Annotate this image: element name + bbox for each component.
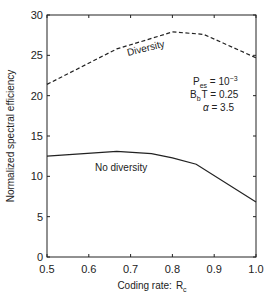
y-tick-label: 30 bbox=[31, 9, 43, 21]
chart: 0.50.60.70.80.91.0 051015202530 Diversit… bbox=[0, 0, 272, 303]
y-axis-label: Normalized spectral efficiency bbox=[5, 70, 16, 203]
x-tick-label: 0.8 bbox=[165, 263, 180, 275]
x-tick-label: 1.0 bbox=[248, 263, 263, 275]
annotation-bbt: BbT = 0.25 bbox=[190, 89, 239, 102]
annotation-p-es: Pes = 10−3 bbox=[193, 75, 238, 89]
series-label-no-diversity: No diversity bbox=[95, 162, 147, 173]
series-label-diversity: Diversity bbox=[126, 38, 166, 58]
y-tick-label: 20 bbox=[31, 90, 43, 102]
x-tick-label: 0.5 bbox=[39, 263, 54, 275]
x-tick-label: 0.6 bbox=[81, 263, 96, 275]
x-tick-label: 0.7 bbox=[123, 263, 138, 275]
x-ticks: 0.50.60.70.80.91.0 bbox=[39, 15, 263, 275]
y-tick-label: 25 bbox=[31, 49, 43, 61]
x-tick-label: 0.9 bbox=[207, 263, 222, 275]
y-tick-label: 15 bbox=[31, 130, 43, 142]
y-tick-label: 0 bbox=[37, 251, 43, 263]
x-axis-label: Coding rate:Rc bbox=[117, 280, 187, 293]
annotation-alpha: α = 3.5 bbox=[203, 102, 234, 113]
y-tick-label: 5 bbox=[37, 211, 43, 223]
series-lines bbox=[47, 32, 256, 202]
y-tick-label: 10 bbox=[31, 170, 43, 182]
series-line-no-diversity bbox=[47, 151, 256, 202]
